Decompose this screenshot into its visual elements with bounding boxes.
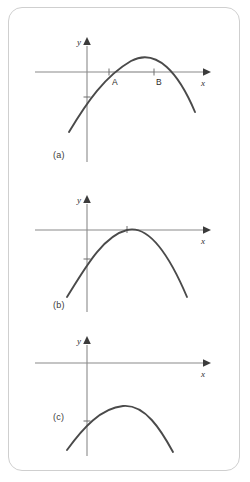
panel-caption-c: (c): [53, 412, 64, 422]
parabola-curve-c: [67, 406, 173, 452]
y-axis-label: y: [76, 336, 81, 346]
y-axis-arrowhead: [83, 195, 91, 203]
parabola-curve-a: [69, 57, 195, 132]
y-axis-label: y: [76, 37, 81, 47]
x-axis-arrowhead: [203, 359, 211, 367]
chart-panel-c: y x (c): [9, 320, 241, 466]
parabola-curve-b: [67, 229, 187, 297]
panel-caption-a: (a): [53, 150, 65, 160]
x-axis-arrowhead: [203, 68, 211, 76]
x-axis-label: x: [200, 236, 205, 246]
panel-caption-b: (b): [53, 300, 65, 310]
point-label-b: B: [156, 77, 162, 87]
figure-card: y x A B (a) y x (b): [8, 7, 240, 471]
point-label-a: A: [112, 77, 118, 87]
chart-panel-a: y x A B (a): [9, 14, 241, 172]
chart-svg-b: y x: [9, 172, 241, 320]
x-axis-label: x: [200, 78, 205, 88]
chart-panel-b: y x (b): [9, 172, 241, 320]
y-axis-arrowhead: [83, 336, 91, 344]
y-axis-arrowhead: [83, 37, 91, 45]
chart-svg-c: y x: [9, 320, 241, 466]
x-axis-arrowhead: [203, 226, 211, 234]
chart-svg-a: y x A B: [9, 14, 241, 172]
x-axis-label: x: [200, 369, 205, 379]
y-axis-label: y: [76, 195, 81, 205]
